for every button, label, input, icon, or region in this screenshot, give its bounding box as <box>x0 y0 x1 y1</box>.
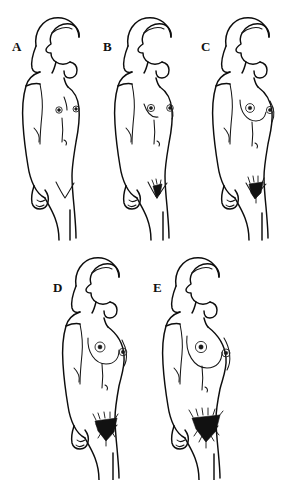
stage-label-a: A <box>12 40 22 53</box>
figure-drawing-b <box>92 0 190 240</box>
panel-stage-b: B <box>92 0 190 240</box>
figure-drawing-a <box>0 0 98 240</box>
panel-stage-a: A <box>0 0 98 240</box>
figure-drawing-d <box>40 240 140 480</box>
stage-label-c: C <box>201 40 211 53</box>
stage-label-b: B <box>103 40 112 53</box>
figure-drawing-e <box>140 240 245 480</box>
figure-drawing-c <box>190 0 290 240</box>
stage-label-e: E <box>153 281 162 294</box>
pubic-hair-c <box>248 176 264 203</box>
panel-stage-e: E <box>140 240 245 480</box>
pubic-hair-b <box>152 179 162 198</box>
panel-stage-c: C <box>190 0 290 240</box>
pubic-hair-d <box>93 412 118 446</box>
stage-label-d: D <box>53 281 63 294</box>
panel-stage-d: D <box>40 240 140 480</box>
tanner-stages-figure: A <box>0 0 290 480</box>
